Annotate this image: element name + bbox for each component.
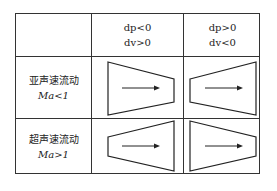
header-1-line2: dv>0: [124, 35, 151, 50]
converging-nozzle-icon: [184, 119, 261, 174]
converging-nozzle-icon: [92, 57, 183, 118]
header-cell-1: dp<0 dv>0: [92, 14, 183, 56]
diverging-nozzle-icon: [92, 119, 183, 174]
row-2-label: 超声速流动: [29, 132, 79, 147]
row-1-label: 亚声速流动: [29, 73, 79, 88]
diverging-nozzle-icon: [184, 57, 261, 118]
nozzle-flow-table: dp<0 dv>0 dp>0 dv<0 亚声速流动 Ma<1 超声速流动 Ma>…: [15, 13, 260, 174]
row-2-condition: Ma>1: [38, 147, 69, 162]
row-label-subsonic: 亚声速流动 Ma<1: [16, 57, 91, 118]
row-1-condition: Ma<1: [38, 88, 69, 103]
row-label-supersonic: 超声速流动 Ma>1: [16, 119, 91, 174]
header-2-line1: dp>0: [209, 20, 237, 35]
header-cell-2: dp>0 dv<0: [184, 14, 261, 56]
header-1-line1: dp<0: [124, 20, 152, 35]
header-2-line2: dv<0: [209, 35, 236, 50]
